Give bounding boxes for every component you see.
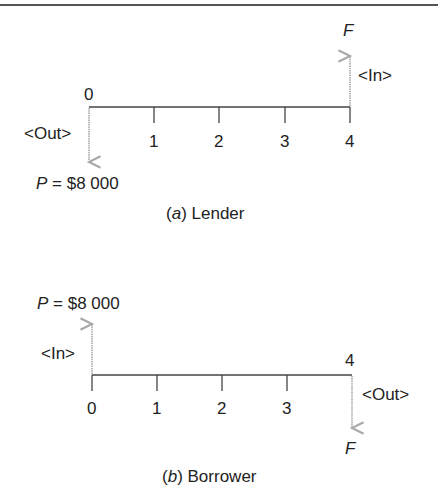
panel-b-in-label: <In>: [41, 345, 75, 362]
panel-a-present-value-label: P = $8 000: [36, 175, 119, 192]
panel-a-timeline: [89, 107, 350, 123]
panel-a-caption-text: Lender: [187, 204, 245, 223]
panel-b-timeline: [92, 375, 352, 391]
panel-b-period-2: 2: [217, 400, 226, 417]
panel-a-period-3: 3: [280, 133, 289, 150]
panel-b-period-3: 3: [282, 400, 291, 417]
panel-a-caption-letter: a: [172, 204, 181, 223]
panel-a-p-value: = $8 000: [47, 174, 118, 193]
panel-a-p-symbol: P: [36, 174, 47, 193]
panel-a-out-label: <Out>: [24, 125, 71, 142]
panel-b-caption-text: Borrower: [183, 467, 257, 486]
panel-b-future-value-label: F: [345, 440, 355, 457]
panel-a-future-value-label: F: [343, 22, 353, 39]
panel-a-period-2: 2: [214, 133, 223, 150]
panel-a-period-4: 4: [345, 133, 354, 150]
panel-a-period-1: 1: [149, 133, 158, 150]
panel-b-period-1: 1: [152, 400, 161, 417]
panel-a-in-label: <In>: [358, 67, 392, 84]
panel-b-period-4: 4: [345, 352, 354, 369]
panel-b-p-symbol: P: [37, 294, 48, 313]
panel-b-p-value: = $8 000: [48, 294, 119, 313]
panel-b-present-value-label: P = $8 000: [37, 295, 120, 312]
panel-b-out-label: <Out>: [362, 386, 409, 403]
panel-a-period-0: 0: [84, 86, 93, 103]
panel-b-period-0: 0: [87, 400, 96, 417]
panel-b-caption: (b) Borrower: [162, 468, 257, 485]
panel-b-caption-letter: b: [168, 467, 177, 486]
panel-a-caption: (a) Lender: [166, 205, 244, 222]
